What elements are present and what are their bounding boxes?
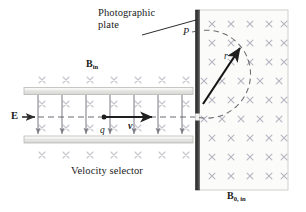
photographic-plate-bar	[195, 10, 200, 190]
point-p-label: P	[183, 27, 189, 37]
b-in-subscript: in	[93, 63, 99, 70]
electric-field-label: E	[11, 111, 18, 122]
velocity-selector-label: Velocity selector	[71, 166, 143, 177]
b0-in-subscript: 0, in	[234, 195, 246, 202]
figure-canvas: Photographic plate Velocity selector Bin…	[0, 0, 306, 212]
charged-particle-and-velocity	[102, 115, 153, 120]
b-in-field-label: Bin	[86, 59, 98, 69]
photographic-plate-label-line2: plate	[98, 19, 119, 30]
b0-in-symbol: B	[227, 190, 234, 201]
physics-diagram-svg	[0, 0, 306, 212]
velocity-selector-assembly	[24, 88, 193, 144]
electric-field-arrows	[38, 95, 182, 134]
capacitor-top-plate	[24, 88, 193, 95]
photographic-plate-label-line1: Photographic	[98, 7, 155, 18]
b0-in-field-label: B0, in	[227, 191, 246, 201]
radius-label: r	[224, 52, 228, 62]
photographic-plate-label: Photographic plate	[98, 7, 155, 30]
charge-label: q	[100, 126, 105, 136]
b-in-symbol: B	[86, 58, 93, 69]
velocity-label: v	[128, 121, 132, 131]
capacitor-bottom-plate	[24, 136, 193, 143]
